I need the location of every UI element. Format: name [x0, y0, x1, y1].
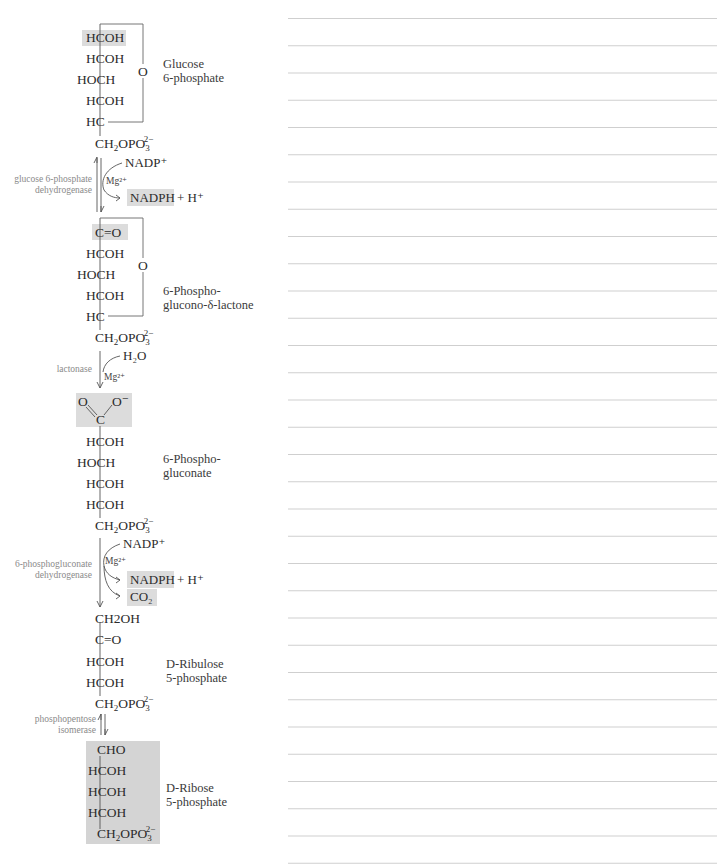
step-4-reaction: phosphopentose isomerase — [35, 714, 108, 735]
enzyme-g6pd-line2: dehydrogenase — [35, 185, 92, 195]
mg-ion-3: Mg²⁺ — [105, 556, 126, 566]
product-co2: CO₂ — [130, 589, 153, 604]
ribose-row-2: HCOH — [88, 763, 127, 778]
lactone-name-line1: 6-Phospho- — [163, 284, 221, 298]
ribose-row-1: CHO — [97, 742, 126, 757]
gluconate-name-line1: 6-Phospho- — [163, 452, 221, 466]
gluconate-phosphate: CH2OPO32− — [92, 516, 178, 535]
g6p-name-line2: 6-phosphate — [163, 71, 225, 85]
pentose-phosphate-diagram: HCOH HCOH HOCH HCOH HC O CH2OPO32− Gluco… — [0, 0, 727, 864]
lactone-row-2: HCOH — [86, 246, 125, 261]
enzyme-isomerase-line2: isomerase — [58, 725, 96, 735]
enzyme-6pgd-line2: dehydrogenase — [35, 570, 92, 580]
g6p-row-1: HCOH — [86, 30, 125, 45]
g6p-name-line1: Glucose — [163, 57, 204, 71]
step-3-reaction: 6-phosphogluconate dehydrogenase NADP⁺ M… — [15, 536, 204, 607]
phosphoglucono-lactone-structure: C=O HCOH HOCH HCOH HC O CH2OPO32− 6-Phos… — [77, 218, 254, 347]
product-nadph-1: NADPH — [130, 190, 175, 205]
g6p-row-2: HCOH — [86, 51, 125, 66]
ribulose-row-4: HCOH — [86, 675, 125, 690]
enzyme-isomerase-line1: phosphopentose — [35, 714, 96, 724]
lactone-row-5: HC — [86, 309, 105, 324]
gluconate-row-2: HOCH — [77, 455, 116, 470]
g6p-row-3: HOCH — [77, 72, 116, 87]
g6p-row-4: HCOH — [86, 93, 125, 108]
cofactor-nadp-1: NADP⁺ — [125, 155, 167, 170]
glucose-6-phosphate-structure: HCOH HCOH HOCH HCOH HC O CH2OPO32− Gluco… — [77, 24, 225, 153]
gluconate-row-1: HCOH — [86, 434, 125, 449]
gluconate-row-4: HCOH — [86, 497, 125, 512]
ribulose-name-line1: D-Ribulose — [166, 657, 224, 671]
ribulose-phosphate: CH2OPO32− — [92, 694, 178, 713]
carboxyl-oxygen: O — [78, 394, 88, 409]
enzyme-6pgd-line1: 6-phosphogluconate — [15, 559, 92, 569]
note-lines — [288, 19, 717, 864]
lactone-name-line2: glucono-δ-lactone — [163, 298, 254, 312]
enzyme-g6pd-line1: glucose 6-phosphate — [14, 174, 92, 184]
carboxyl-oxygen-minus: O⁻ — [112, 394, 129, 409]
ribulose-row-3: HCOH — [86, 654, 125, 669]
svg-text:CH2OPO32−: CH2OPO32− — [95, 328, 153, 347]
enzyme-lactonase: lactonase — [57, 364, 92, 374]
product-h-2: + H⁺ — [177, 572, 204, 587]
lactone-ring-oxygen: O — [138, 258, 148, 273]
ribose-row-3: HCOH — [88, 784, 127, 799]
mg-ion-2: Mg²⁺ — [104, 372, 125, 382]
ribulose-row-2: C=O — [95, 632, 122, 647]
ribose-5-phosphate-structure: CHO HCOH HCOH HCOH CH2OPO32− D-Ribose 5-… — [86, 741, 228, 844]
lactone-row-4: HCOH — [86, 288, 125, 303]
svg-text:CH2OPO32−: CH2OPO32− — [95, 694, 153, 713]
ribose-phosphate: CH2OPO32− — [97, 824, 155, 843]
gluconate-name-line2: gluconate — [163, 466, 212, 480]
ribulose-name-line2: 5-phosphate — [166, 671, 228, 685]
step-1-reaction: glucose 6-phosphate dehydrogenase NADP⁺ … — [14, 155, 204, 212]
ribose-row-4: HCOH — [88, 805, 127, 820]
lactone-row-1: C=O — [95, 225, 122, 240]
product-h-1: + H⁺ — [177, 190, 204, 205]
cofactor-water: H₂O — [123, 348, 146, 363]
cofactor-nadp-2: NADP⁺ — [123, 536, 165, 551]
g6p-row-5: HC — [86, 114, 105, 129]
lactone-phosphate: CH2OPO32− — [92, 328, 178, 347]
ribulose-5-phosphate-structure: CH2OH C=O HCOH HCOH CH2OPO32− D-Ribulose… — [86, 611, 228, 713]
ribose-name-line2: 5-phosphate — [166, 795, 228, 809]
lactone-row-3: HOCH — [77, 267, 116, 282]
ribulose-row-1: CH2OH — [95, 611, 140, 626]
step-2-reaction: lactonase H₂O Mg²⁺ — [57, 348, 147, 388]
product-nadph-2: NADPH — [130, 572, 175, 587]
phosphogluconate-structure: O O⁻ C HCOH HOCH HCOH HCOH CH2OPO32− 6-P… — [76, 393, 221, 535]
gluconate-row-3: HCOH — [86, 476, 125, 491]
ribose-name-line1: D-Ribose — [166, 781, 214, 795]
g6p-phosphate: CH2OPO32− — [92, 134, 178, 153]
carboxyl-carbon: C — [96, 412, 105, 427]
mg-ion-1: Mg²⁺ — [106, 176, 127, 186]
svg-text:CH2OPO32−: CH2OPO32− — [95, 134, 153, 153]
g6p-ring-oxygen: O — [138, 64, 148, 79]
svg-text:CH2OPO32−: CH2OPO32− — [95, 516, 153, 535]
